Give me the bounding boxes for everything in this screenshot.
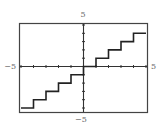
step-function-plot: 5 −5 −5 5	[0, 0, 159, 127]
y-max-label: 5	[80, 10, 85, 19]
x-max-label: 5	[151, 62, 156, 71]
x-min-label: −5	[4, 62, 16, 71]
y-min-label: −5	[75, 115, 87, 124]
